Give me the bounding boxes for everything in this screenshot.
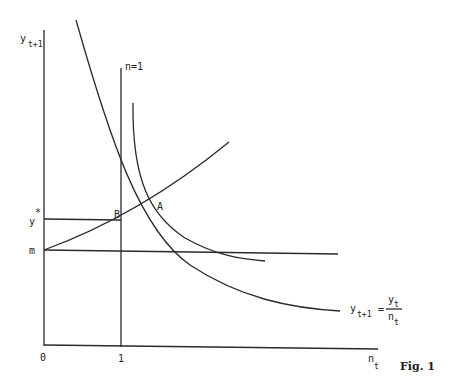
- equation-label: y t+1 = y t n t: [350, 294, 402, 327]
- horizontal-line-ystar: [44, 219, 121, 220]
- eq-den-sub: t: [394, 318, 399, 327]
- y-axis-sub: t+1: [28, 40, 43, 49]
- hyperbola-curve: [76, 20, 340, 311]
- x-tick-1-label: 1: [118, 353, 124, 364]
- vline-label: n=1: [125, 61, 143, 72]
- figure-caption: Fig. 1: [400, 360, 435, 373]
- m-label: m: [29, 245, 35, 256]
- origin-label: 0: [40, 352, 46, 363]
- horizontal-line-m: [44, 250, 338, 254]
- eq-num-sub: t: [394, 300, 399, 309]
- eq-lhs-sub: t+1: [357, 310, 372, 319]
- figure-canvas: y t+1 n=1 y * m B A 0 1 n t Fig. 1 y t+1…: [0, 0, 450, 392]
- point-a-label: A: [157, 201, 163, 212]
- x-axis: [44, 345, 378, 349]
- steep-curve: [133, 103, 265, 261]
- point-b-label: B: [114, 209, 120, 220]
- ystar-sup: *: [35, 207, 41, 218]
- eq-equals: =: [378, 304, 384, 315]
- x-axis-sub: t: [374, 362, 379, 371]
- y-axis-label: y: [20, 33, 26, 44]
- eq-lhs: y: [350, 303, 356, 314]
